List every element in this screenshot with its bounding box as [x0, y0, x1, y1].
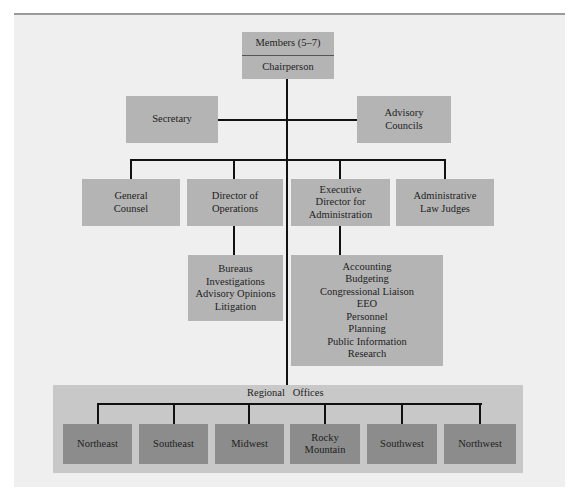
office-northeast-label: Northeast: [77, 438, 118, 451]
alj-line1: Administrative: [414, 190, 477, 203]
main-spine-line: [286, 79, 288, 405]
drop-southeast: [173, 403, 175, 424]
advisory-label-line2: Councils: [385, 120, 422, 133]
office-midwest-label: Midwest: [231, 438, 268, 451]
secretary-box: Secretary: [126, 96, 218, 143]
admin-unit-research: Research: [348, 348, 386, 361]
office-rocky-line1: Rocky: [311, 432, 338, 445]
exec-line1: Executive: [320, 184, 362, 197]
office-northeast: Northeast: [63, 424, 132, 464]
general-counsel-line1: General: [114, 190, 147, 203]
drop-ops-units: [233, 226, 235, 255]
office-southeast-label: Southeast: [153, 438, 194, 451]
drop-general-counsel: [130, 159, 132, 179]
ops-unit-litigation: Litigation: [215, 301, 256, 314]
top-rule: [14, 13, 565, 15]
office-rocky-mountain: Rocky Mountain: [290, 424, 360, 464]
drop-southwest: [401, 403, 403, 424]
drop-midwest: [248, 403, 250, 424]
members-box: Members (5–7): [242, 32, 334, 55]
exec-line2: Director for: [316, 196, 366, 209]
office-midwest: Midwest: [215, 424, 284, 464]
office-southwest: Southwest: [367, 424, 437, 464]
operations-units-box: Bureaus Investigations Advisory Opinions…: [188, 255, 283, 321]
advisory-councils-box: Advisory Councils: [357, 96, 451, 143]
admin-unit-public-information: Public Information: [327, 336, 407, 349]
director-operations-box: Director of Operations: [187, 179, 283, 226]
drop-rocky-mountain: [324, 403, 326, 424]
regional-offices-label: Regional Offices: [247, 387, 324, 398]
director-ops-line2: Operations: [212, 203, 258, 216]
staff-connector: [218, 119, 357, 121]
office-northwest-label: Northwest: [458, 438, 502, 451]
drop-northeast: [97, 403, 99, 424]
executive-director-box: Executive Director for Administration: [291, 179, 390, 226]
drop-admin-law: [444, 159, 446, 179]
general-counsel-box: General Counsel: [82, 179, 180, 226]
advisory-label-line1: Advisory: [384, 107, 423, 120]
admin-unit-budgeting: Budgeting: [345, 273, 389, 286]
ops-unit-bureaus: Bureaus: [218, 263, 252, 276]
general-counsel-line2: Counsel: [114, 203, 148, 216]
administration-units-box: Accounting Budgeting Congressional Liais…: [291, 255, 443, 366]
director-ops-line1: Director of: [212, 190, 258, 203]
drop-northwest: [479, 403, 481, 424]
admin-unit-eeo: EEO: [357, 298, 377, 311]
admin-unit-planning: Planning: [348, 323, 385, 336]
drop-admin-units: [339, 226, 341, 255]
ops-unit-advisory-opinions: Advisory Opinions: [195, 288, 275, 301]
alj-line2: Law Judges: [420, 203, 470, 216]
office-southwest-label: Southwest: [380, 438, 424, 451]
admin-unit-accounting: Accounting: [343, 261, 392, 274]
admin-unit-congressional-liaison: Congressional Liaison: [320, 286, 414, 299]
chairperson-box: Chairperson: [242, 56, 334, 79]
office-southeast: Southeast: [139, 424, 208, 464]
admin-law-judges-box: Administrative Law Judges: [396, 179, 494, 226]
office-rocky-line2: Mountain: [305, 444, 346, 457]
second-level-branch: [130, 159, 446, 161]
drop-director-ops: [233, 159, 235, 179]
regional-branch: [97, 403, 482, 405]
admin-unit-personnel: Personnel: [346, 311, 387, 324]
exec-line3: Administration: [309, 209, 373, 222]
secretary-label: Secretary: [152, 113, 192, 126]
chairperson-label: Chairperson: [262, 61, 313, 74]
ops-unit-investigations: Investigations: [206, 276, 265, 289]
members-label: Members (5–7): [255, 37, 320, 50]
drop-exec-director: [339, 159, 341, 179]
office-northwest: Northwest: [444, 424, 516, 464]
